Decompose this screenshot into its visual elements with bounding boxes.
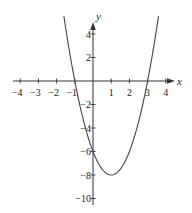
- x-axis-arrow-icon: [167, 78, 175, 84]
- y-tick-label: −2: [80, 99, 91, 110]
- y-tick-label: −6: [80, 146, 91, 157]
- x-axis: [13, 78, 175, 84]
- y-axis: [90, 22, 96, 205]
- y-tick-label: 4: [86, 29, 91, 40]
- x-axis-label: x: [176, 75, 182, 87]
- x-tick-label: −2: [48, 87, 59, 98]
- x-tick-label: −4: [12, 87, 23, 98]
- y-axis-label: y: [95, 10, 101, 22]
- x-tick-label: 2: [127, 87, 132, 98]
- y-axis-arrow-icon: [90, 22, 96, 30]
- x-tick-label: 4: [163, 87, 168, 98]
- x-tick-label: 1: [109, 87, 114, 98]
- y-axis-ticks: 42−2−4−6−8−10: [75, 29, 95, 205]
- x-tick-label: −1: [66, 87, 77, 98]
- y-tick-label: −10: [75, 193, 91, 204]
- y-tick-label: −8: [80, 170, 91, 181]
- parabola-chart: −4−3−2−11234 42−2−4−6−8−10 x y: [0, 0, 192, 213]
- y-tick-label: 2: [86, 52, 91, 63]
- x-tick-label: −3: [30, 87, 41, 98]
